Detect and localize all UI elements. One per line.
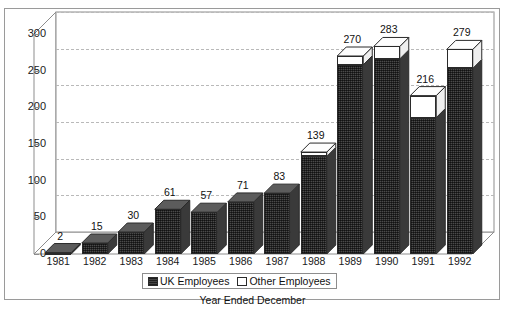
x-axis-tick-label-1990: 1990 — [370, 255, 404, 267]
x-axis-tick-label-1987: 1987 — [260, 255, 294, 267]
x-axis-tick-label-1988: 1988 — [297, 255, 331, 267]
chart-legend: UK Employees Other Employees — [142, 273, 337, 289]
bar-segment-other — [447, 49, 473, 68]
legend-label-other: Other Employees — [249, 275, 330, 287]
legend-label-uk: UK Employees — [160, 275, 229, 287]
x-axis-title: Year Ended December — [0, 294, 505, 306]
bar-value-label: 279 — [441, 27, 483, 38]
legend-item-uk-employees: UK Employees — [148, 275, 229, 287]
x-axis-tick-label-1986: 1986 — [224, 255, 258, 267]
x-axis-tick-label-1985: 1985 — [187, 255, 221, 267]
x-axis-tick-label-1981: 1981 — [41, 255, 75, 267]
x-axis-tick-label-1992: 1992 — [443, 255, 477, 267]
x-axis-tick-label-1983: 1983 — [114, 255, 148, 267]
bar-segment-uk — [447, 68, 473, 254]
x-axis-tick-label-1982: 1982 — [78, 255, 112, 267]
legend-item-other-employees: Other Employees — [237, 275, 330, 287]
x-axis-tick-label-1989: 1989 — [333, 255, 367, 267]
x-axis: 1981198219831984198519861987198819891990… — [34, 252, 504, 274]
x-axis-tick-label-1984: 1984 — [151, 255, 185, 267]
legend-swatch-other-icon — [237, 277, 247, 286]
legend-swatch-uk-icon — [148, 277, 158, 286]
x-axis-tick-label-1991: 1991 — [406, 255, 440, 267]
chart-canvas: 050100150200250300 215306157718313927028… — [0, 0, 505, 312]
